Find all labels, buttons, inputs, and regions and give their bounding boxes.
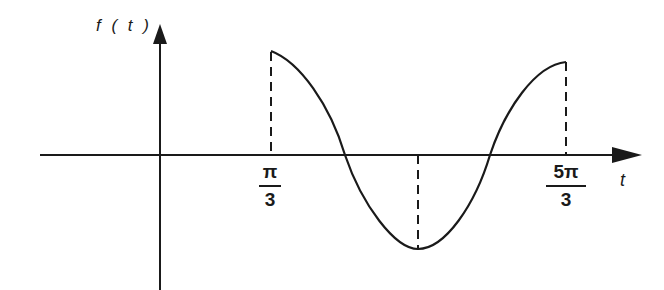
tick-denominator: 3 xyxy=(544,190,588,210)
fraction-bar xyxy=(546,185,586,187)
y-axis-label: f ( t ) xyxy=(96,16,152,36)
tick-label-pi-over-3: π 3 xyxy=(255,162,285,210)
y-axis-arrow-icon xyxy=(153,24,167,44)
x-axis-arrow-icon xyxy=(612,147,642,163)
tick-numerator: π xyxy=(255,162,285,182)
function-plot xyxy=(0,0,664,290)
fraction-bar xyxy=(259,185,281,187)
x-axis-label: t xyxy=(620,170,625,191)
tick-numerator: 5π xyxy=(544,162,588,182)
tick-denominator: 3 xyxy=(255,190,285,210)
tick-label-5pi-over-3: 5π 3 xyxy=(544,162,588,210)
